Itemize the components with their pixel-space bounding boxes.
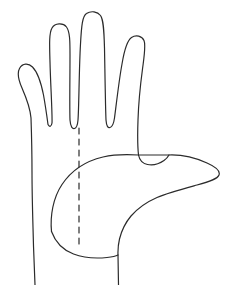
hand-outline-svg — [0, 0, 231, 285]
figure-background — [0, 0, 231, 285]
figure-root: Hand outline with midline — [0, 0, 231, 285]
